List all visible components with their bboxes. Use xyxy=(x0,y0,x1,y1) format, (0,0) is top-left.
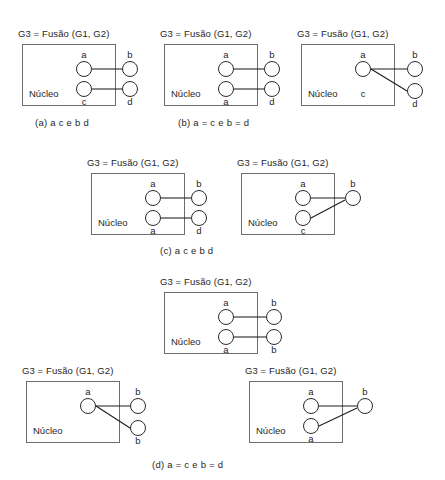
diagram-title: G3 = Fusão (G1, G2) xyxy=(160,276,251,287)
inner-node-a[interactable] xyxy=(355,61,371,77)
caption-a: (a) a c e b d xyxy=(35,117,89,128)
outer-node-label: b xyxy=(130,435,146,446)
diagram-c-right: G3 = Fusão (G1, G2) Núcleo a c b xyxy=(237,157,367,239)
outer-node-label: b xyxy=(264,49,280,60)
inner-node-label: a xyxy=(218,297,234,308)
inner-node-label: a xyxy=(80,386,96,397)
inner-node-label: a xyxy=(145,225,161,236)
inner-node-label: a xyxy=(295,178,311,189)
nucleus-label: Núcleo xyxy=(98,217,128,228)
inner-node-a2[interactable] xyxy=(218,329,234,345)
inner-node-label: a xyxy=(76,49,92,60)
inner-node-label: a xyxy=(218,96,234,107)
inner-node-a2[interactable] xyxy=(303,418,319,434)
inner-node-label: a xyxy=(218,49,234,60)
outer-node-b[interactable] xyxy=(266,309,282,325)
outer-node-b[interactable] xyxy=(345,190,361,206)
inner-node-a[interactable] xyxy=(303,398,319,414)
diagram-title: G3 = Fusão (G1, G2) xyxy=(160,28,251,39)
inner-node-a[interactable] xyxy=(145,190,161,206)
inner-node-a[interactable] xyxy=(218,61,234,77)
caption-b: (b) a = c e b = d xyxy=(178,117,249,128)
diagram-d-center: G3 = Fusão (G1, G2) Núcleo a a b b xyxy=(160,276,300,358)
outer-node-b[interactable] xyxy=(407,61,423,77)
nucleus-label: Núcleo xyxy=(171,88,201,99)
diagram-title: G3 = Fusão (G1, G2) xyxy=(245,365,336,376)
inner-node-c[interactable] xyxy=(76,81,92,97)
outer-node-b2[interactable] xyxy=(130,420,146,436)
inner-node-label: c xyxy=(76,96,92,107)
outer-node-label: b xyxy=(357,386,373,397)
inner-node-a2[interactable] xyxy=(218,81,234,97)
inner-node-label: a xyxy=(145,178,161,189)
nucleus-label: Núcleo xyxy=(33,425,63,436)
nucleus-label: Núcleo xyxy=(308,88,338,99)
outer-node-d[interactable] xyxy=(264,81,280,97)
inner-node-a[interactable] xyxy=(80,398,96,414)
diagram-c-left: G3 = Fusão (G1, G2) Núcleo a a b d xyxy=(87,157,217,239)
outer-node-label: b xyxy=(191,178,207,189)
outer-node-label: b xyxy=(345,178,361,189)
inner-node-label: a xyxy=(355,49,371,60)
diagram-title: G3 = Fusão (G1, G2) xyxy=(237,157,328,168)
diagram-title: G3 = Fusão (G1, G2) xyxy=(297,28,388,39)
nucleus-label: Núcleo xyxy=(171,336,201,347)
outer-node-b[interactable] xyxy=(191,190,207,206)
outer-node-d[interactable] xyxy=(191,210,207,226)
diagram-b-middle: G3 = Fusão (G1, G2) Núcleo a a b d xyxy=(160,28,290,110)
outer-node-b[interactable] xyxy=(130,398,146,414)
nucleus-label: Núcleo xyxy=(256,425,286,436)
outer-node-b2[interactable] xyxy=(266,329,282,345)
inner-node-a[interactable] xyxy=(295,190,311,206)
outer-node-b[interactable] xyxy=(122,61,138,77)
diagram-d-right: G3 = Fusão (G1, G2) Núcleo a a b xyxy=(245,365,385,447)
outer-node-b[interactable] xyxy=(357,398,373,414)
diagram-title: G3 = Fusão (G1, G2) xyxy=(22,365,113,376)
inner-node-a[interactable] xyxy=(218,309,234,325)
outer-node-label: b xyxy=(130,386,146,397)
diagram-a-left: G3 = Fusão (G1, G2) Núcleo a c b d xyxy=(18,28,148,110)
outer-node-label: b xyxy=(266,297,282,308)
caption-c: (c) a c e b d xyxy=(160,245,213,256)
outer-node-b[interactable] xyxy=(264,61,280,77)
caption-d: (d) a = c e b = d xyxy=(152,459,223,470)
diagram-b-right: G3 = Fusão (G1, G2) Núcleo a c b d xyxy=(297,28,437,110)
outer-node-label: b xyxy=(266,344,282,355)
outer-node-d[interactable] xyxy=(122,81,138,97)
fusion-figure: G3 = Fusão (G1, G2) Núcleo a c b d G3 = … xyxy=(0,0,445,480)
diagram-title: G3 = Fusão (G1, G2) xyxy=(18,28,109,39)
inner-node-label: a xyxy=(303,433,319,444)
outer-node-label: d xyxy=(264,96,280,107)
inner-node-a2[interactable] xyxy=(145,210,161,226)
inner-node-a[interactable] xyxy=(76,61,92,77)
diagram-d-left: G3 = Fusão (G1, G2) Núcleo a b b xyxy=(22,365,162,447)
outer-node-label: d xyxy=(191,225,207,236)
outer-node-label: d xyxy=(407,98,423,109)
nucleus-label: Núcleo xyxy=(29,88,59,99)
outer-node-label: b xyxy=(407,49,423,60)
outer-node-label: b xyxy=(122,49,138,60)
outer-node-d[interactable] xyxy=(407,83,423,99)
inner-node-label: a xyxy=(218,344,234,355)
inner-extra-label-c: c xyxy=(355,88,371,99)
inner-node-c[interactable] xyxy=(295,210,311,226)
nucleus-label: Núcleo xyxy=(248,217,278,228)
outer-node-label: d xyxy=(122,96,138,107)
diagram-title: G3 = Fusão (G1, G2) xyxy=(87,157,178,168)
inner-node-label: a xyxy=(303,386,319,397)
inner-node-label: c xyxy=(295,225,311,236)
